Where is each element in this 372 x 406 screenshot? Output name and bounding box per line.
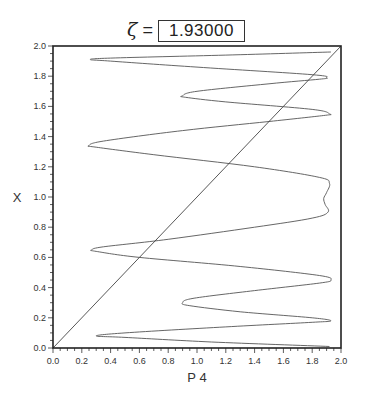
x-tick-label: 1.6 xyxy=(277,356,290,366)
x-tick-label: 0.0 xyxy=(47,356,60,366)
y-tick-label: 1.6 xyxy=(33,101,46,111)
y-tick-label: 1.2 xyxy=(33,162,46,172)
x-tick-label: 0.6 xyxy=(133,356,146,366)
x-axis-label: P 4 xyxy=(187,370,206,385)
y-tick-label: 1.8 xyxy=(33,71,46,81)
x-tick-label: 1.0 xyxy=(191,356,204,366)
y-tick-label: 2.0 xyxy=(33,41,46,51)
x-tick-label: 0.8 xyxy=(162,356,175,366)
y-tick-label: 0.8 xyxy=(33,222,46,232)
y-tick-label: 1.0 xyxy=(33,192,46,202)
y-axis-label: X xyxy=(13,190,22,205)
x-tick-label: 0.2 xyxy=(76,356,89,366)
x-tick-label: 1.8 xyxy=(306,356,319,366)
x-tick-label: 0.4 xyxy=(104,356,117,366)
y-tick-label: 0.0 xyxy=(33,343,46,353)
y-tick-label: 0.2 xyxy=(33,313,46,323)
x-tick-label: 1.4 xyxy=(248,356,261,366)
x-tick-label: 2.0 xyxy=(335,356,348,366)
y-tick-label: 0.6 xyxy=(33,252,46,262)
y-tick-label: 1.4 xyxy=(33,132,46,142)
x-tick-label: 1.2 xyxy=(220,356,233,366)
p4-curve xyxy=(88,52,331,346)
plot-area: 0.00.20.40.60.81.01.21.41.61.82.00.00.20… xyxy=(0,0,372,406)
y-tick-label: 0.4 xyxy=(33,283,46,293)
